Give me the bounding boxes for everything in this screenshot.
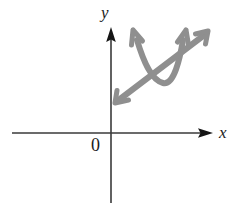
coordinate-plane-svg: [0, 0, 240, 209]
x-axis-label: x: [219, 124, 227, 141]
parabola-curve: [137, 40, 183, 83]
graph-figure: y x 0: [0, 0, 240, 209]
origin-label: 0: [91, 136, 100, 154]
y-axis-label: y: [101, 4, 109, 21]
